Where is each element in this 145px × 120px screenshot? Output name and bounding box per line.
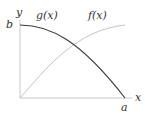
f-curve-label: f(x) xyxy=(87,9,107,22)
g-curve xyxy=(20,25,125,98)
y-tick-label-b: b xyxy=(6,18,13,31)
g-curve-label: g(x) xyxy=(36,9,58,22)
x-axis-label: x xyxy=(135,91,142,104)
y-axis-label: y xyxy=(15,6,23,19)
x-tick-label-a: a xyxy=(121,101,128,114)
function-plot: y x b a g(x) f(x) xyxy=(0,0,145,120)
f-curve xyxy=(20,25,125,98)
